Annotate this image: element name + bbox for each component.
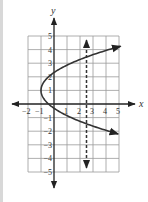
graph-figure: −2−11234554321−1−2−3−4−5 x y <box>0 0 148 202</box>
x-tick-label: 3 <box>90 107 94 116</box>
x-tick-label: −2 <box>22 107 31 116</box>
coordinate-plane: −2−11234554321−1−2−3−4−5 x y <box>0 0 148 202</box>
y-axis-label: y <box>50 5 56 16</box>
y-tick-label: 1 <box>48 86 52 95</box>
x-tick-label: 4 <box>103 107 107 116</box>
y-tick-label: −4 <box>43 154 52 163</box>
y-tick-label: −5 <box>43 168 52 177</box>
y-tick-label: 4 <box>48 46 52 55</box>
x-axis-label: x <box>138 98 144 109</box>
x-tick-label: −1 <box>35 107 44 116</box>
left-border <box>0 0 3 202</box>
y-tick-label: 3 <box>48 59 52 68</box>
y-tick-label: −2 <box>43 127 52 136</box>
y-tick-label: −1 <box>43 114 52 123</box>
axes <box>12 18 135 188</box>
y-tick-label: −3 <box>43 141 52 150</box>
x-tick-label: 2 <box>77 107 81 116</box>
y-tick-label: 5 <box>48 32 52 41</box>
x-tick-label: 5 <box>116 107 120 116</box>
